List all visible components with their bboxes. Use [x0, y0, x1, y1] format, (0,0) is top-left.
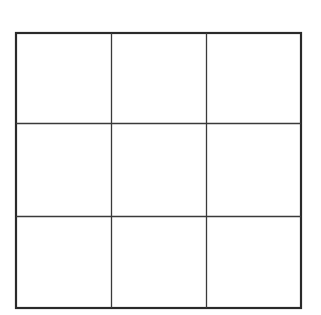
grid-diagram — [0, 0, 321, 315]
grid-outer-border — [16, 33, 301, 308]
